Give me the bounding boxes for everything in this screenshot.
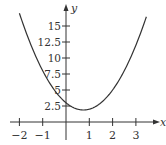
y-tick-label: 12.5 — [38, 36, 61, 48]
x-tick-label: −1 — [35, 129, 51, 142]
y-axis-arrow-icon — [64, 4, 69, 11]
x-tick-label: 3 — [132, 129, 139, 142]
x-axis-arrow-icon — [153, 120, 160, 125]
axes: −2−11232.557.51012.515 — [10, 4, 160, 142]
y-tick-label: 2.5 — [44, 100, 61, 112]
x-tick-label: −2 — [11, 129, 27, 142]
parabola-curve — [19, 13, 146, 110]
x-tick-label: 2 — [109, 129, 116, 142]
x-axis-label: x — [160, 116, 166, 129]
y-tick-label: 15 — [48, 20, 61, 32]
x-tick-label: 1 — [86, 129, 93, 142]
parabola-chart: −2−11232.557.51012.515 x y — [0, 0, 166, 145]
y-tick-label: 10 — [48, 52, 61, 64]
y-axis-label: y — [70, 2, 78, 15]
